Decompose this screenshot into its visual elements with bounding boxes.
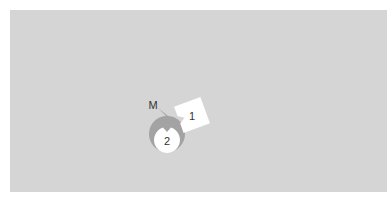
piece-2-label: 2 xyxy=(164,136,170,147)
scene-shapes xyxy=(0,0,392,199)
piece-m-label: M xyxy=(148,100,157,111)
canvas-frame: M 1 2 xyxy=(0,0,392,199)
piece-1-label: 1 xyxy=(189,111,195,122)
